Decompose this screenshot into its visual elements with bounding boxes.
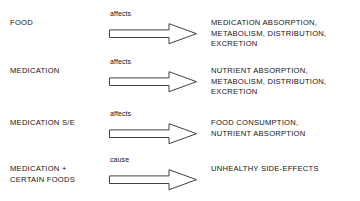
relation-label: affects xyxy=(110,110,131,117)
relation-label: affects xyxy=(110,10,131,17)
target-text: MEDICATION ABSORPTION, METABOLISM, DISTR… xyxy=(211,18,353,50)
target-text: UNHEALTHY SIDE-EFFECTS xyxy=(211,164,353,175)
source-label: MEDICATION + CERTAIN FOODS xyxy=(10,164,105,185)
target-text: NUTRIENT ABSORPTION, METABOLISM, DISTRIB… xyxy=(211,66,353,98)
source-label: FOOD xyxy=(10,18,105,29)
relation-label: affects xyxy=(110,58,131,65)
block-arrow-right-icon xyxy=(108,120,200,144)
relation-label: cause xyxy=(110,156,129,163)
block-arrow-right-icon xyxy=(108,68,200,92)
source-label: MEDICATION S/E xyxy=(10,118,105,129)
block-arrow-right-icon xyxy=(108,20,200,44)
food-drug-interaction-diagram: FOOD affects MEDICATION ABSORPTION, META… xyxy=(0,0,360,201)
source-label: MEDICATION xyxy=(10,66,105,77)
block-arrow-right-icon xyxy=(108,166,200,190)
target-text: FOOD CONSUMPTION, NUTRIENT ABSORPTION xyxy=(211,118,353,139)
